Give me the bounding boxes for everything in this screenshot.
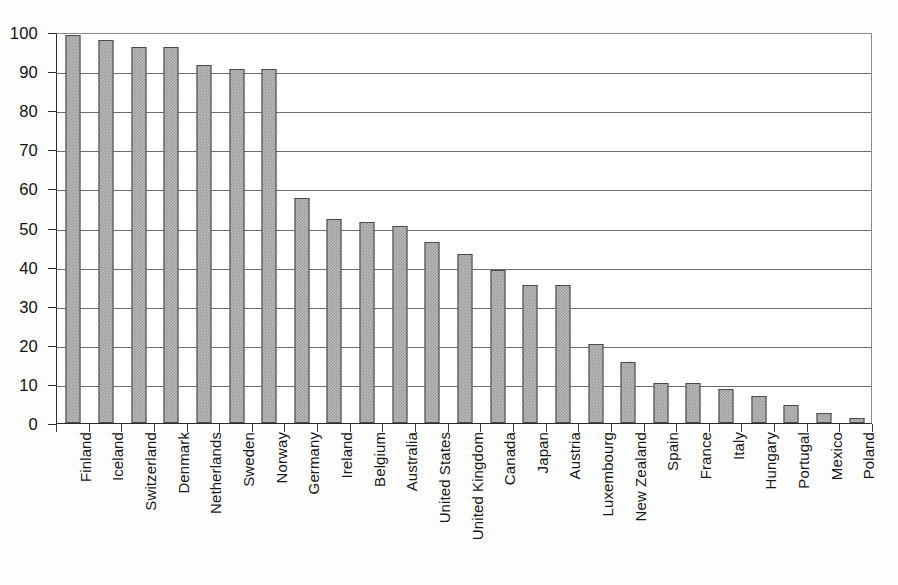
bar[interactable] [392, 226, 407, 423]
y-tick-label: 100 [10, 25, 38, 42]
bar[interactable] [164, 47, 179, 423]
x-axis-category-label-text: Austria [567, 432, 582, 479]
bar-slot [808, 34, 841, 423]
bar[interactable] [457, 254, 472, 423]
bar[interactable] [98, 40, 113, 423]
x-axis-category-label-text: Iceland [110, 432, 125, 481]
x-axis-category-label-text: Sweden [241, 432, 256, 487]
bar-slot [481, 34, 514, 423]
plot-area [56, 33, 872, 424]
x-axis-category-label-text: Norway [274, 432, 289, 483]
bar[interactable] [66, 35, 81, 423]
bar[interactable] [719, 389, 734, 423]
y-tick-label: 50 [19, 220, 38, 237]
x-axis-category-label-text: Ireland [339, 432, 354, 479]
x-axis-category-label-text: Mexico [829, 432, 844, 480]
bar-slot [677, 34, 710, 423]
bar-slot [188, 34, 221, 423]
x-axis-category-label-text: Portugal [796, 432, 811, 489]
bar[interactable] [229, 69, 244, 423]
bar-slot [645, 34, 678, 423]
x-axis-category-label-text: Denmark [176, 432, 191, 494]
y-tick-mark [48, 268, 56, 269]
x-axis-category-label-text: Germany [306, 432, 321, 494]
bar[interactable] [653, 383, 668, 423]
bar[interactable] [849, 418, 864, 423]
x-tick-mark [56, 424, 57, 432]
bar-chart: 0102030405060708090100 FinlandIcelandSwi… [0, 0, 898, 585]
y-tick-mark [48, 189, 56, 190]
x-axis-category-label-text: Netherlands [208, 432, 223, 514]
x-axis-category-label-text: Belgium [372, 432, 387, 487]
y-tick-mark [48, 33, 56, 34]
y-tick-label: 80 [19, 103, 38, 120]
bar[interactable] [196, 65, 211, 423]
bar[interactable] [131, 47, 146, 423]
bar-slot [57, 34, 90, 423]
bar-slot [285, 34, 318, 423]
x-axis-category-label-text: United States [437, 432, 452, 523]
x-axis-category-label-text: Australia [404, 432, 419, 491]
y-tick-label: 70 [19, 142, 38, 159]
bar-slot [514, 34, 547, 423]
y-tick-label: 60 [19, 181, 38, 198]
bar[interactable] [621, 362, 636, 423]
y-tick-mark [48, 150, 56, 151]
bar[interactable] [751, 396, 766, 423]
bar-slot [775, 34, 808, 423]
bar-slot [90, 34, 123, 423]
bar-slot [579, 34, 612, 423]
y-tick-label: 40 [19, 259, 38, 276]
x-axis-category-label-text: New Zealand [633, 432, 648, 521]
bars-layer [57, 34, 871, 423]
bar[interactable] [817, 413, 832, 423]
bar-slot [155, 34, 188, 423]
x-axis-category-label-text: Spain [665, 432, 680, 471]
bar-slot [449, 34, 482, 423]
y-tick-mark [48, 346, 56, 347]
y-tick-label: 90 [19, 64, 38, 81]
x-axis-category-label-text: Italy [731, 432, 746, 460]
bar-slot [416, 34, 449, 423]
y-tick-label: 10 [19, 377, 38, 394]
bar-slot [840, 34, 873, 423]
x-axis-category-label-text: France [698, 432, 713, 479]
x-axis-category-label-text: Japan [535, 432, 550, 473]
y-tick-mark [48, 229, 56, 230]
bar[interactable] [360, 222, 375, 423]
bar[interactable] [686, 383, 701, 423]
bar[interactable] [555, 285, 570, 423]
x-axis-category-label-text: Finland [78, 432, 93, 482]
bar[interactable] [294, 198, 309, 423]
bar-slot [318, 34, 351, 423]
x-axis-category-label-text: United Kingdom [470, 432, 485, 540]
bar-slot [612, 34, 645, 423]
y-tick-mark [48, 72, 56, 73]
y-tick-label: 20 [19, 338, 38, 355]
x-axis-category-label-text: Luxembourg [600, 432, 615, 516]
y-tick-mark [48, 307, 56, 308]
bar-slot [351, 34, 384, 423]
y-tick-label: 0 [29, 416, 38, 433]
x-axis-labels: FinlandIcelandSwitzerlandDenmarkNetherla… [56, 432, 872, 582]
x-axis-category-label-text: Hungary [763, 432, 778, 489]
y-tick-mark [48, 424, 56, 425]
bar-slot [742, 34, 775, 423]
y-axis: 0102030405060708090100 [0, 0, 48, 585]
bar[interactable] [327, 219, 342, 423]
bar-slot [547, 34, 580, 423]
y-tick-mark [48, 385, 56, 386]
y-tick-mark [48, 111, 56, 112]
bar-slot [383, 34, 416, 423]
x-axis-category-label-text: Canada [502, 432, 517, 485]
bar[interactable] [784, 405, 799, 423]
bar-slot [122, 34, 155, 423]
bar[interactable] [523, 285, 538, 423]
y-tick-label: 30 [19, 298, 38, 315]
bar[interactable] [588, 344, 603, 423]
bar-slot [710, 34, 743, 423]
x-axis-category-label-text: Switzerland [143, 432, 158, 511]
bar[interactable] [425, 242, 440, 423]
bar[interactable] [262, 69, 277, 423]
bar[interactable] [490, 270, 505, 423]
